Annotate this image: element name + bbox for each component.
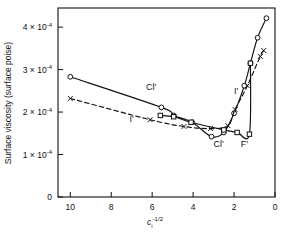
series-line (70, 18, 266, 137)
x-tick-label: 10 (66, 202, 76, 212)
x-axis-title-sup: -1/2 (153, 216, 164, 222)
figure-container: 1086420 01 × 10-42 × 10-43 × 10-44 × 10-… (0, 0, 290, 233)
curve-label-clprime: Cl' (214, 139, 224, 149)
svg-text:ci-1/2: ci-1/2 (147, 216, 164, 229)
data-point-marker (255, 35, 260, 40)
axes-frame (58, 8, 275, 197)
data-point-marker (171, 115, 175, 119)
x-tick-label: 6 (150, 202, 155, 212)
data-point-marker (235, 130, 239, 134)
x-tick-label: 0 (273, 202, 278, 212)
series-clprime (68, 16, 269, 139)
data-point-marker (189, 120, 193, 124)
data-point-marker (158, 113, 162, 117)
plot-border (58, 8, 275, 197)
y-tick-label: 1 × 10-4 (23, 149, 53, 160)
y-axis-ticks: 01 × 10-42 × 10-43 × 10-44 × 10-4 (23, 22, 63, 202)
curve-label-iprime: I' (234, 86, 239, 96)
x-axis-ticks: 1086420 (66, 192, 278, 212)
x-axis-title-sub: i (151, 223, 152, 229)
series-fprime (158, 61, 252, 139)
curve-label-fprime: F' (241, 139, 248, 149)
data-point-marker (159, 105, 164, 110)
curve-label-iprime: I' (130, 114, 135, 124)
curve-label-clprime: Cl' (146, 82, 156, 92)
data-point-marker (68, 74, 73, 79)
data-point-marker (248, 61, 252, 65)
data-point-marker (264, 16, 269, 21)
y-tick-label: 2 × 10-4 (23, 107, 53, 118)
data-series-group (68, 16, 269, 139)
data-point-marker (247, 132, 251, 136)
x-axis-title: ci-1/2 (147, 216, 164, 229)
series-line (160, 63, 250, 139)
y-tick-label: 4 × 10-4 (23, 22, 53, 33)
y-axis-title: Surface viscosity (surface poise) (3, 42, 13, 165)
x-tick-label: 4 (191, 202, 196, 212)
x-tick-label: 8 (109, 202, 114, 212)
y-tick-label: 3 × 10-4 (23, 64, 53, 75)
curve-labels-group: Cl'Cl'I'I'F' (130, 82, 249, 149)
data-point-marker (222, 128, 226, 132)
y-tick-label: 0 (47, 192, 52, 202)
x-tick-label: 2 (232, 202, 237, 212)
surface-viscosity-chart: 1086420 01 × 10-42 × 10-43 × 10-44 × 10-… (0, 0, 290, 233)
